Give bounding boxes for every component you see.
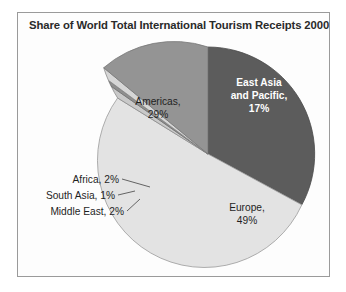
pie-label-east-asia-and-pacific-line1: East Asia	[236, 77, 282, 88]
pie-label-europe-line2: 49%	[237, 215, 257, 226]
pie-label-africa: Africa, 2%	[73, 174, 119, 185]
pie-label-americas-line2: 29%	[148, 109, 168, 120]
pie-label-south-asia: South Asia, 1%	[46, 190, 115, 201]
chart-frame: Share of World Total International Touri…	[17, 12, 330, 277]
pie-label-east-asia-and-pacific-line3: 17%	[249, 103, 269, 114]
pie-label-europe-line1: Europe,	[229, 202, 265, 213]
pie-label-middle-east: Middle East, 2%	[50, 206, 124, 217]
pie-chart: East Asia and Pacific, 17% Europe, 49% A…	[18, 13, 329, 276]
pie-label-east-asia-and-pacific-line2: and Pacific,	[231, 90, 288, 101]
pie-label-americas-line1: Americas,	[135, 96, 180, 107]
